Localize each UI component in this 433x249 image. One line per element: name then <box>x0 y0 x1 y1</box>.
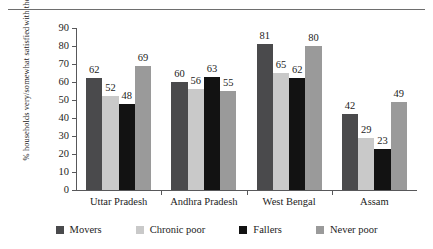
y-axis-tick <box>72 28 77 29</box>
bar-never-poor-west-bengal <box>305 46 321 190</box>
bar-value-label: 81 <box>251 31 279 42</box>
y-axis-tick-label: 80 <box>47 41 69 52</box>
bar-value-label: 29 <box>352 125 380 136</box>
bar-value-label: 42 <box>336 101 364 112</box>
top-divider-rule <box>8 9 425 10</box>
bar-fallers-uttar-pradesh <box>119 104 135 190</box>
y-axis-tick-label: 30 <box>47 131 69 142</box>
legend-swatch-icon <box>239 226 247 234</box>
chart-figure: % households very/somewhat satisfied wit… <box>0 0 433 249</box>
legend-label: Never poor <box>330 225 378 236</box>
bar-chronic-poor-west-bengal <box>273 73 289 190</box>
y-axis-tick <box>72 100 77 101</box>
y-axis-title-line-1: % households very/somewhat satisfied <box>22 27 32 161</box>
bar-never-poor-andhra-pradesh <box>220 91 236 190</box>
bar-fallers-andhra-pradesh <box>204 77 220 190</box>
y-axis-tick-label: 20 <box>47 149 69 160</box>
y-axis-tick-label: 40 <box>47 113 69 124</box>
y-axis-tick-label: 70 <box>47 59 69 70</box>
bar-value-label: 80 <box>299 33 327 44</box>
y-axis-line <box>76 28 77 190</box>
bar-fallers-west-bengal <box>289 78 305 190</box>
y-axis-tick <box>72 82 77 83</box>
y-axis-tick-label: 0 <box>47 185 69 196</box>
y-axis-title-line-2: with their local democracy <box>22 0 32 26</box>
y-axis-tick-label: 90 <box>47 23 69 34</box>
legend-label: Chronic poor <box>150 225 206 236</box>
x-axis-group-separator <box>161 190 162 195</box>
legend-item-movers: Movers <box>56 225 102 236</box>
x-axis-group-separator <box>332 190 333 195</box>
x-axis-category-label: Assam <box>322 196 427 208</box>
legend-item-chronic-poor: Chronic poor <box>136 225 206 236</box>
x-axis-group-separator <box>247 190 248 195</box>
y-axis-title: % households very/somewhat satisfied wit… <box>13 0 41 136</box>
bar-chronic-poor-andhra-pradesh <box>188 89 204 190</box>
bar-never-poor-uttar-pradesh <box>135 66 151 190</box>
legend-swatch-icon <box>56 226 64 234</box>
y-axis-tick <box>72 136 77 137</box>
y-axis-tick <box>72 118 77 119</box>
bar-value-label: 55 <box>214 78 242 89</box>
bar-never-poor-assam <box>391 102 407 190</box>
bar-value-label: 63 <box>198 64 226 75</box>
y-axis-tick <box>72 190 77 191</box>
plot-area: 0102030405060708090625248696056635581656… <box>76 28 417 190</box>
bar-movers-andhra-pradesh <box>171 82 187 190</box>
bar-value-label: 69 <box>129 53 157 64</box>
bar-value-label: 62 <box>80 65 108 76</box>
bar-chronic-poor-uttar-pradesh <box>102 96 118 190</box>
bar-movers-uttar-pradesh <box>86 78 102 190</box>
legend-label: Movers <box>70 225 102 236</box>
legend-swatch-icon <box>136 226 144 234</box>
bar-fallers-assam <box>374 149 390 190</box>
y-axis-tick <box>72 154 77 155</box>
y-axis-tick <box>72 64 77 65</box>
y-axis-tick-label: 50 <box>47 95 69 106</box>
legend-label: Fallers <box>253 225 282 236</box>
y-axis-tick <box>72 172 77 173</box>
chart-legend: MoversChronic poorFallersNever poor <box>0 221 433 239</box>
legend-swatch-icon <box>316 226 324 234</box>
y-axis-tick-label: 60 <box>47 77 69 88</box>
y-axis-tick <box>72 46 77 47</box>
bar-value-label: 49 <box>385 89 413 100</box>
y-axis-tick-label: 10 <box>47 167 69 178</box>
legend-item-never-poor: Never poor <box>316 225 378 236</box>
legend-item-fallers: Fallers <box>239 225 282 236</box>
